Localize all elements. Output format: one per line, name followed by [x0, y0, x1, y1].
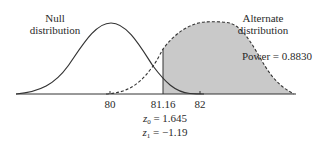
z1-equation: z1 = −1.19 [140, 126, 190, 138]
tick-label-82: 82 [190, 98, 210, 110]
null-distribution-label: Null distribution [20, 12, 90, 36]
null-label-line1: Null [20, 12, 90, 24]
z0-value: = 1.645 [151, 112, 187, 124]
z1-value: = −1.19 [150, 126, 187, 138]
tick-label-80: 80 [100, 98, 120, 110]
tick-label-81-16: 81.16 [148, 98, 178, 110]
power-label: Power = 0.8830 [242, 50, 312, 62]
alternate-label-line2: distribution [222, 24, 304, 36]
z0-equation: z0 = 1.645 [140, 112, 190, 124]
alternate-label-line1: Alternate [222, 12, 304, 24]
null-label-line2: distribution [20, 24, 90, 36]
alternate-distribution-label: Alternate distribution [222, 12, 304, 36]
power-diagram: Null distribution Alternate distribution… [0, 0, 326, 143]
